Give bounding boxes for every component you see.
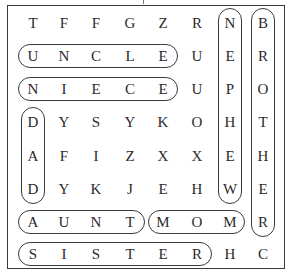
grid-cell[interactable]: T: [118, 242, 142, 266]
grid-cell[interactable]: H: [251, 144, 275, 168]
grid-cell[interactable]: N: [21, 77, 45, 101]
grid-cell[interactable]: C: [84, 44, 108, 68]
grid-cell[interactable]: A: [21, 144, 45, 168]
grid-cell[interactable]: H: [185, 177, 209, 201]
grid-cell[interactable]: Y: [52, 177, 76, 201]
grid-cell[interactable]: D: [21, 177, 45, 201]
grid-cell[interactable]: O: [251, 77, 275, 101]
grid-cell[interactable]: E: [151, 77, 175, 101]
grid-cell[interactable]: T: [251, 110, 275, 134]
grid-cell[interactable]: F: [52, 11, 76, 35]
word-search-grid: TFFGZRNBUNCLEUERNIECEUPODYSYKOHTAFIZXXEH…: [7, 5, 285, 269]
grid-cell[interactable]: C: [251, 242, 275, 266]
grid-cell[interactable]: R: [251, 44, 275, 68]
grid-cell[interactable]: H: [218, 110, 242, 134]
grid-cell[interactable]: I: [52, 77, 76, 101]
grid-cell[interactable]: J: [118, 177, 142, 201]
grid-cell[interactable]: P: [218, 77, 242, 101]
grid-cell[interactable]: X: [151, 144, 175, 168]
grid-cell[interactable]: H: [218, 242, 242, 266]
grid-cell[interactable]: C: [118, 77, 142, 101]
grid-cell[interactable]: F: [52, 144, 76, 168]
top-tick-mark: [143, 0, 144, 4]
grid-cell[interactable]: U: [21, 44, 45, 68]
grid-cell[interactable]: N: [84, 210, 108, 234]
grid-cell[interactable]: S: [21, 242, 45, 266]
grid-cell[interactable]: E: [218, 144, 242, 168]
grid-cell[interactable]: Z: [151, 11, 175, 35]
grid-cell[interactable]: I: [52, 242, 76, 266]
found-word-sister[interactable]: [18, 242, 212, 266]
grid-cell[interactable]: E: [251, 177, 275, 201]
grid-cell[interactable]: S: [84, 242, 108, 266]
grid-cell[interactable]: U: [185, 44, 209, 68]
grid-cell[interactable]: T: [21, 11, 45, 35]
grid-cell[interactable]: Z: [118, 144, 142, 168]
grid-cell[interactable]: Y: [52, 110, 76, 134]
grid-cell[interactable]: K: [151, 110, 175, 134]
grid-cell[interactable]: N: [218, 11, 242, 35]
grid-cell[interactable]: N: [52, 44, 76, 68]
grid-cell[interactable]: E: [84, 77, 108, 101]
grid-cell[interactable]: U: [52, 210, 76, 234]
grid-cell[interactable]: W: [218, 177, 242, 201]
grid-cell[interactable]: M: [151, 210, 175, 234]
grid-cell[interactable]: I: [84, 144, 108, 168]
grid-cell[interactable]: U: [185, 77, 209, 101]
grid-cell[interactable]: A: [21, 210, 45, 234]
grid-cell[interactable]: E: [151, 242, 175, 266]
grid-cell[interactable]: X: [185, 144, 209, 168]
grid-cell[interactable]: R: [185, 242, 209, 266]
found-word-nephew[interactable]: [218, 8, 242, 204]
grid-cell[interactable]: Y: [118, 110, 142, 134]
grid-cell[interactable]: L: [118, 44, 142, 68]
grid-cell[interactable]: O: [185, 110, 209, 134]
grid-cell[interactable]: B: [251, 11, 275, 35]
grid-cell[interactable]: E: [151, 44, 175, 68]
grid-cell[interactable]: F: [84, 11, 108, 35]
grid-cell[interactable]: E: [151, 177, 175, 201]
grid-cell[interactable]: G: [118, 11, 142, 35]
grid-cell[interactable]: M: [218, 210, 242, 234]
grid-cell[interactable]: D: [21, 110, 45, 134]
grid-cell[interactable]: S: [84, 110, 108, 134]
grid-cell[interactable]: R: [251, 210, 275, 234]
grid-cell[interactable]: E: [218, 44, 242, 68]
grid-cell[interactable]: K: [84, 177, 108, 201]
grid-cell[interactable]: T: [118, 210, 142, 234]
grid-cell[interactable]: R: [185, 11, 209, 35]
grid-cell[interactable]: O: [185, 210, 209, 234]
